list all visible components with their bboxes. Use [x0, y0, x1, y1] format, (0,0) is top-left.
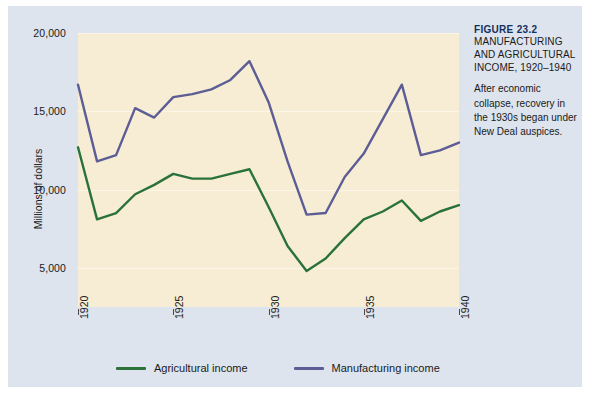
legend-swatch-manufacturing: [294, 367, 324, 370]
figure-panel: Millions of dollars 5,00010,00015,00020,…: [8, 6, 582, 387]
figure-caption: FIGURE 23.2 MANUFACTURING AND AGRICULTUR…: [474, 24, 578, 139]
caption-figure-number: FIGURE 23.2: [474, 24, 578, 35]
y-axis: Millions of dollars 5,00010,00015,00020,…: [8, 33, 72, 307]
legend-item-manufacturing: Manufacturing income: [294, 362, 440, 374]
legend-swatch-agricultural: [116, 367, 146, 370]
chart-legend: Agricultural income Manufacturing income: [78, 358, 468, 378]
x-tick-label: 1940: [459, 296, 471, 319]
series-line: [78, 147, 459, 271]
x-tick-label: 1930: [269, 296, 281, 319]
x-tick-label: 1920: [78, 296, 90, 319]
series-lines: [78, 33, 459, 307]
legend-label-manufacturing: Manufacturing income: [332, 362, 440, 374]
caption-title: MANUFACTURING AND AGRICULTURAL INCOME, 1…: [474, 36, 578, 74]
legend-label-agricultural: Agricultural income: [154, 362, 248, 374]
y-tick-label: 5,000: [39, 262, 66, 274]
caption-body: After economic collapse, recovery in the…: [474, 82, 578, 139]
y-tick-label: 15,000: [33, 105, 66, 117]
plot-area: [78, 33, 459, 307]
x-tick-label: 1935: [364, 296, 376, 319]
x-tick-label: 1925: [173, 296, 185, 319]
series-line: [78, 61, 459, 214]
y-tick-label: 10,000: [33, 184, 66, 196]
x-axis: 19201925193019351940: [78, 307, 459, 359]
y-tick-label: 20,000: [33, 27, 66, 39]
legend-item-agricultural: Agricultural income: [116, 362, 248, 374]
